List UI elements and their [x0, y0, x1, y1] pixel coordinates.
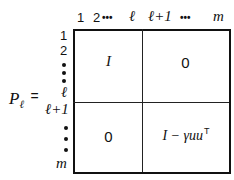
col-ellipsis-2: ••• [180, 12, 191, 23]
col-ellipsis-1: ••• [102, 12, 113, 23]
row-label-l-plus-1: ℓ+1 [45, 101, 69, 118]
row-dot [62, 71, 66, 75]
row-label-1: 1 [60, 28, 67, 43]
block-bottom-left: 0 [75, 128, 142, 145]
row-label-l: ℓ [61, 84, 67, 101]
block-bottom-right: I − γuuT [143, 126, 229, 144]
col-label-l-plus-1: ℓ+1 [148, 8, 172, 25]
col-label-m: m [213, 8, 224, 25]
row-dot [64, 126, 68, 130]
col-label-l: ℓ [129, 8, 135, 25]
row-dot [62, 79, 66, 83]
row-dot [62, 63, 66, 67]
transpose-superscript: T [204, 126, 210, 136]
column-divider [142, 29, 143, 172]
row-dot [64, 148, 68, 152]
col-label-1: 1 [77, 10, 84, 25]
row-dot [64, 137, 68, 141]
equals-sign: = [30, 88, 38, 104]
row-divider [73, 102, 229, 103]
row-label-2: 2 [60, 43, 67, 58]
col-label-l-plus-1-text: ℓ+1 [148, 8, 172, 24]
matrix-name: Pℓ = [9, 89, 39, 109]
col-label-2: 2 [93, 10, 100, 25]
matrix-subscript: ℓ [19, 98, 24, 110]
block-bottom-right-expr: I − γuu [162, 128, 203, 143]
block-top-right: 0 [143, 54, 228, 71]
row-label-m: m [56, 155, 67, 172]
matrix-symbol: P [9, 89, 19, 108]
block-top-left: I [75, 53, 142, 70]
